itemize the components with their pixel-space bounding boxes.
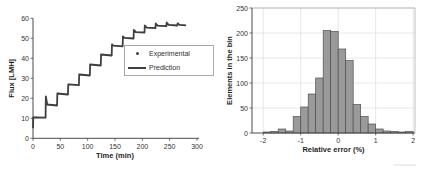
experimental-point (88, 75, 90, 77)
x-tick-label: 0 (336, 137, 340, 144)
y-axis-label: Flux [LMH] (7, 58, 16, 97)
histogram-bar (301, 107, 308, 133)
y-tick-label: 40 (21, 55, 29, 62)
histogram-bar (323, 31, 330, 134)
experimental-point (86, 74, 88, 76)
y-tick-label: 200 (236, 30, 248, 37)
experimental-point (158, 25, 160, 27)
experimental-point (53, 104, 55, 106)
experimental-point (103, 54, 105, 56)
x-tick-label: 200 (136, 143, 148, 150)
y-tick-label: 20 (21, 95, 29, 102)
y-tick-label: 60 (21, 15, 29, 22)
experimental-point (51, 104, 53, 106)
experimental-point (130, 37, 132, 39)
histogram-plot-area: 050100150200250-2-1012Relative error (%)… (220, 0, 421, 171)
x-axis-label: Relative error (%) (302, 145, 365, 154)
histogram-bar (353, 105, 360, 134)
histogram-bar (278, 129, 285, 133)
x-tick-label: 300 (191, 143, 203, 150)
experimental-dot-marker (125, 52, 149, 55)
x-tick-label: 1 (374, 137, 378, 144)
x-tick-label: 50 (56, 143, 64, 150)
experimental-point (49, 104, 51, 106)
experimental-point (184, 24, 186, 26)
experimental-point (79, 74, 81, 76)
x-tick-label: 0 (31, 143, 35, 150)
experimental-point (42, 117, 44, 119)
experimental-point (145, 26, 147, 28)
experimental-point (68, 84, 70, 86)
x-tick-label: -2 (260, 137, 266, 144)
x-tick-label: 150 (109, 143, 121, 150)
experimental-point (136, 31, 138, 33)
y-tick-label: 250 (236, 5, 248, 12)
experimental-point (151, 27, 153, 29)
flux-chart-plot-area: 0102030405060050100150200250300Time (min… (0, 0, 215, 171)
experimental-point (105, 54, 107, 56)
y-tick-label: 50 (21, 35, 29, 42)
experimental-point (38, 117, 40, 119)
experimental-point (33, 117, 35, 119)
experimental-point (55, 105, 57, 107)
experimental-point (92, 64, 94, 66)
experimental-point (101, 54, 103, 56)
experimental-point (143, 32, 145, 34)
experimental-point (95, 64, 97, 66)
y-tick-label: 10 (21, 115, 29, 122)
x-tick-label: -1 (298, 137, 304, 144)
experimental-point (46, 104, 48, 106)
experimental-point (90, 64, 92, 66)
experimental-point (57, 93, 59, 95)
flux-step-chart: 0102030405060050100150200250300Time (min… (0, 0, 215, 171)
chart-legend: Experimental Prediction (124, 45, 214, 76)
histogram-bar (361, 117, 368, 134)
experimental-point (164, 25, 166, 27)
experimental-point (147, 27, 149, 29)
experimental-point (97, 64, 99, 66)
experimental-point (171, 24, 173, 26)
legend-entry-prediction: Prediction (125, 61, 213, 74)
experimental-point (138, 31, 140, 33)
experimental-point (64, 93, 66, 95)
figure-canvas: 0102030405060050100150200250300Time (min… (0, 0, 421, 171)
experimental-point (62, 93, 64, 95)
prediction-line-marker (125, 67, 149, 69)
experimental-point (162, 25, 164, 27)
x-tick-label: 2 (411, 137, 415, 144)
experimental-point (40, 117, 42, 119)
legend-label-experimental: Experimental (149, 50, 190, 58)
experimental-point (70, 84, 72, 86)
experimental-point (121, 45, 123, 47)
experimental-point (44, 117, 46, 119)
histogram-bar (338, 49, 345, 133)
experimental-point (132, 38, 134, 40)
experimental-point (116, 45, 118, 47)
experimental-point (154, 27, 156, 29)
legend-label-prediction: Prediction (149, 64, 180, 72)
experimental-point (180, 24, 182, 26)
experimental-point (112, 44, 114, 46)
experimental-point (125, 37, 127, 39)
experimental-point (178, 23, 180, 25)
experimental-point (110, 55, 112, 57)
experimental-point (60, 93, 62, 95)
histogram-bar (346, 61, 353, 134)
x-tick-label: 100 (82, 143, 94, 150)
experimental-point (77, 84, 79, 86)
histogram-bar (316, 78, 323, 133)
x-tick-label: 250 (164, 143, 176, 150)
histogram-bar (368, 124, 375, 133)
legend-entry-experimental: Experimental (125, 47, 213, 60)
experimental-point (99, 65, 101, 67)
experimental-point (175, 25, 177, 27)
scan-artifact (394, 164, 416, 166)
y-tick-label: 30 (21, 75, 29, 82)
experimental-point (134, 30, 136, 32)
experimental-point (119, 45, 121, 47)
histogram-bar (293, 117, 300, 134)
y-axis-label: Elements in the bin (225, 36, 234, 105)
experimental-point (35, 117, 37, 119)
experimental-point (156, 24, 158, 26)
y-tick-label: 0 (25, 135, 29, 142)
